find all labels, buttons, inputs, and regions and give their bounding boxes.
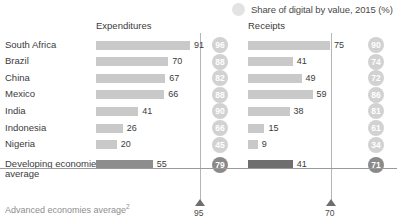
advanced-economies-average-label: Advanced economies average2: [5, 203, 130, 215]
value-expenditures: 41: [142, 106, 152, 117]
share-badge-expenditures: 90: [212, 103, 228, 119]
column-header-receipts: Receipts: [248, 20, 285, 31]
footer-label-text: Advanced economies average: [5, 205, 126, 215]
table-row: Brazil70884174: [0, 56, 397, 73]
bar-receipts: [248, 124, 264, 133]
value-expenditures: 67: [169, 73, 179, 84]
totals-divider: [0, 168, 397, 169]
marker-triangle-expenditures-icon: [195, 199, 205, 206]
value-receipts: 15: [268, 123, 278, 134]
legend: Share of digital by value, 2015 (%): [232, 3, 393, 16]
column-header-expenditures: Expenditures: [96, 20, 151, 31]
bar-expenditures: [96, 90, 164, 99]
share-badge-expenditures: 82: [212, 70, 228, 86]
digital-payments-chart: Share of digital by value, 2015 (%) Expe…: [0, 0, 397, 224]
marker-triangle-receipts-icon: [326, 199, 336, 206]
value-receipts: 38: [294, 106, 304, 117]
marker-value-expenditures: 95: [194, 208, 203, 218]
share-badge-expenditures: 96: [212, 37, 228, 53]
bar-expenditures: [96, 107, 138, 116]
value-receipts: 75: [334, 40, 344, 51]
row-label: China: [5, 73, 30, 83]
share-badge-receipts: 90: [368, 37, 384, 53]
footnote-marker: 2: [126, 203, 130, 210]
row-label: Indonesia: [5, 123, 46, 133]
value-expenditures: 91: [194, 40, 204, 51]
share-badge-receipts: 74: [368, 54, 384, 70]
bar-expenditures: [96, 41, 190, 50]
row-label: India: [5, 106, 26, 116]
value-expenditures: 20: [121, 139, 131, 150]
row-label: South Africa: [5, 40, 56, 50]
bar-expenditures: [96, 57, 168, 66]
share-badge-receipts: 72: [368, 70, 384, 86]
table-row: China67824972: [0, 73, 397, 90]
table-row: Mexico66885986: [0, 89, 397, 106]
value-expenditures: 66: [168, 89, 178, 100]
value-expenditures: 70: [172, 56, 182, 67]
bar-expenditures: [96, 140, 117, 149]
share-badge-expenditures: 88: [212, 87, 228, 103]
marker-value-receipts: 70: [325, 208, 334, 218]
bar-receipts: [248, 74, 302, 83]
share-badge-receipts: 61: [368, 120, 384, 136]
row-label: Nigeria: [5, 139, 35, 149]
share-badge-receipts: 71: [368, 157, 384, 173]
share-badge-expenditures: 45: [212, 137, 228, 153]
legend-label: Share of digital by value, 2015 (%): [251, 4, 393, 15]
table-row: Nigeria2045934: [0, 139, 397, 156]
row-label-line2: average: [5, 168, 39, 179]
share-badge-receipts: 81: [368, 103, 384, 119]
bar-receipts: [248, 57, 293, 66]
table-row: Indonesia26661561: [0, 123, 397, 140]
bar-receipts: [248, 140, 258, 149]
row-label: Brazil: [5, 56, 29, 66]
share-badge-expenditures: 88: [212, 54, 228, 70]
table-row: India41903881: [0, 106, 397, 123]
bar-expenditures: [96, 124, 123, 133]
row-label: Mexico: [5, 89, 35, 99]
share-badge-receipts: 34: [368, 137, 384, 153]
share-badge-expenditures: 79: [212, 157, 228, 173]
value-receipts: 49: [306, 73, 316, 84]
table-row: South Africa91967590: [0, 40, 397, 57]
bar-receipts: [248, 41, 330, 50]
value-receipts: 59: [317, 89, 327, 100]
share-badge-expenditures: 66: [212, 120, 228, 136]
bar-expenditures: [96, 74, 165, 83]
bar-receipts: [248, 90, 313, 99]
bar-receipts: [248, 107, 290, 116]
value-receipts: 41: [297, 56, 307, 67]
circle-swatch-icon: [232, 3, 245, 16]
value-expenditures: 26: [127, 123, 137, 134]
share-badge-receipts: 86: [368, 87, 384, 103]
value-receipts: 9: [262, 139, 267, 150]
